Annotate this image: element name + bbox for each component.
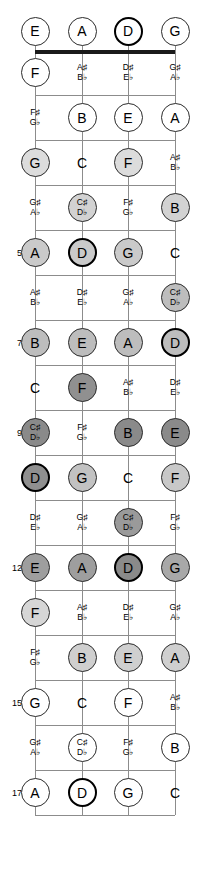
note-marker: G♯A♭ (65, 508, 99, 537)
note-marker: C (68, 688, 97, 717)
note-label: B (170, 740, 179, 756)
note-marker: B (68, 103, 97, 132)
nut (35, 50, 175, 54)
note-label-flat: D♭ (77, 748, 87, 758)
note-label-flat: A♭ (30, 208, 40, 218)
note-marker: G (21, 688, 50, 717)
note-marker: G♯A♭ (158, 598, 192, 627)
note-label: G (123, 245, 134, 261)
note-label-flat: G♭ (170, 523, 181, 533)
note-label: B (30, 335, 39, 351)
note-marker: C (68, 148, 97, 177)
note-label: A (30, 785, 39, 801)
note-label: E (123, 650, 132, 666)
note-label: C (77, 695, 87, 711)
note-label-flat: E♭ (170, 388, 180, 398)
note-label-flat: G♭ (77, 433, 88, 443)
note-label: B (123, 425, 132, 441)
note-label: F (31, 605, 40, 621)
fret-line-6 (35, 320, 175, 321)
note-marker: F♯G♭ (158, 508, 192, 537)
note-marker-root: D (68, 238, 97, 267)
note-label-flat: B♭ (30, 298, 40, 308)
fret-line-13 (35, 635, 175, 636)
fret-line-3 (35, 185, 175, 186)
note-label-flat: A♭ (77, 523, 87, 533)
note-marker: D♯E♭ (111, 598, 145, 627)
note-label-flat: B♭ (77, 613, 87, 623)
note-marker: A (21, 778, 50, 807)
note-marker: G (161, 17, 190, 46)
note-marker: A (114, 328, 143, 357)
note-marker: B (161, 733, 190, 762)
note-label: D (123, 23, 133, 39)
note-marker: G (114, 778, 143, 807)
fret-line-9 (35, 455, 175, 456)
fret-number-5: 5 (6, 249, 22, 258)
fret-line-10 (35, 500, 175, 501)
note-marker: F (21, 58, 50, 87)
note-label-flat: B♭ (123, 388, 133, 398)
note-label: F (171, 470, 180, 486)
note-marker: A♯B♭ (158, 688, 192, 717)
fret-line-16 (35, 770, 175, 771)
note-marker: G♯A♭ (158, 58, 192, 87)
note-marker: G♯A♭ (18, 193, 52, 222)
note-label: A (170, 110, 179, 126)
note-marker-root: D (161, 328, 190, 357)
note-marker: F♯G♭ (18, 643, 52, 672)
note-marker: F (114, 688, 143, 717)
note-label: B (77, 110, 86, 126)
note-label-flat: B♭ (170, 163, 180, 173)
note-label-flat: E♭ (123, 73, 133, 83)
note-marker: B (161, 193, 190, 222)
note-marker: D♯E♭ (65, 283, 99, 312)
fretboard-diagram: 579121517EADGFA♯B♭D♯E♭G♯A♭F♯G♭BEAGCFA♯B♭… (0, 0, 201, 873)
fret-line-17 (35, 815, 175, 816)
note-marker: A (161, 643, 190, 672)
note-marker-root: D (114, 17, 143, 46)
fret-line-11 (35, 545, 175, 546)
note-marker: G (68, 463, 97, 492)
note-marker: E (114, 643, 143, 672)
fret-line-15 (35, 725, 175, 726)
note-label-flat: E♭ (123, 613, 133, 623)
note-label-flat: G♭ (123, 208, 134, 218)
note-label-flat: B♭ (170, 703, 180, 713)
note-marker: B (21, 328, 50, 357)
note-label: D (77, 785, 87, 801)
note-marker: G (21, 148, 50, 177)
fret-line-2 (35, 140, 175, 141)
note-label-flat: G♭ (30, 658, 41, 668)
note-marker: A♯B♭ (18, 283, 52, 312)
fret-line-12 (35, 590, 175, 591)
note-marker: F (21, 598, 50, 627)
note-label: C (170, 785, 180, 801)
note-marker: F♯G♭ (65, 418, 99, 447)
note-marker: D♯E♭ (111, 58, 145, 87)
note-label-flat: D♭ (123, 523, 133, 533)
note-marker: C♯D♭ (21, 418, 50, 447)
note-label: C (77, 155, 87, 171)
note-marker-root: D (21, 463, 50, 492)
note-marker: F (68, 373, 97, 402)
note-marker-root: D (68, 778, 97, 807)
note-marker: G♯A♭ (111, 283, 145, 312)
note-marker: D♯E♭ (158, 373, 192, 402)
note-label-flat: A♭ (170, 613, 180, 623)
note-label-flat: A♭ (123, 298, 133, 308)
note-label-flat: B♭ (77, 73, 87, 83)
note-label: D (123, 560, 133, 576)
note-label: C (30, 380, 40, 396)
note-marker: G (161, 553, 190, 582)
note-label: F (124, 155, 133, 171)
note-marker: C (161, 238, 190, 267)
note-marker: F♯G♭ (18, 103, 52, 132)
note-marker: C♯D♭ (161, 283, 190, 312)
note-label: E (30, 23, 39, 39)
note-marker: A♯B♭ (65, 58, 99, 87)
note-marker: G (114, 238, 143, 267)
note-label: A (77, 560, 86, 576)
note-marker: B (114, 418, 143, 447)
note-label-flat: G♭ (30, 118, 41, 128)
